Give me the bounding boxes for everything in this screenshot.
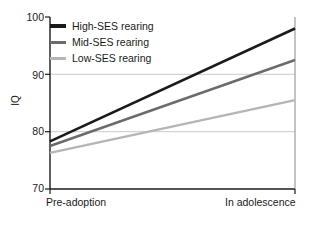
chart-screenshot: IQ 100 90 80 70 xyxy=(0,0,310,225)
legend-label-low-ses: Low-SES rearing xyxy=(72,53,151,64)
legend-label-high-ses: High-SES rearing xyxy=(72,21,154,32)
x-tick-label-pre-adoption: Pre-adoption xyxy=(46,197,106,208)
legend-label-mid-ses: Mid-SES rearing xyxy=(72,37,149,48)
legend-item-high-ses: High-SES rearing xyxy=(50,18,170,34)
x-tick-label-in-adolescence: In adolescence xyxy=(225,197,296,208)
series-line-mid-ses xyxy=(50,60,295,146)
legend-swatch-mid-ses-icon xyxy=(50,41,66,44)
legend-item-low-ses: Low-SES rearing xyxy=(50,50,170,66)
legend-swatch-high-ses-icon xyxy=(50,24,66,28)
legend-swatch-low-ses-icon xyxy=(50,57,66,60)
legend-item-mid-ses: Mid-SES rearing xyxy=(50,34,170,50)
series-line-low-ses xyxy=(50,100,295,153)
legend: High-SES rearing Mid-SES rearing Low-SES… xyxy=(50,18,170,66)
iq-by-ses-line-chart: IQ 100 90 80 70 xyxy=(0,0,310,225)
